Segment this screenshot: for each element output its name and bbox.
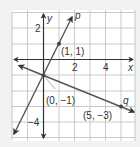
point-label-0-m1: (0, −1) <box>46 95 75 106</box>
point-0-m1 <box>42 73 46 77</box>
y-tick-m4: −4 <box>28 117 40 128</box>
line-p-label: p <box>74 10 81 21</box>
y-axis-label: y <box>46 13 53 24</box>
point-label-1-1: (1, 1) <box>61 46 84 57</box>
y-tick-2: 2 <box>35 23 41 34</box>
coordinate-plane: y x 2 4 2 −4 p q (1, 1) (0, −1) (5, −3) <box>0 0 140 147</box>
x-axis-label: x <box>127 62 134 73</box>
line-q-label: q <box>123 95 129 106</box>
x-tick-4: 4 <box>103 62 109 73</box>
point-label-5-m3: (5, −3) <box>83 110 112 121</box>
x-tick-2: 2 <box>72 62 78 73</box>
